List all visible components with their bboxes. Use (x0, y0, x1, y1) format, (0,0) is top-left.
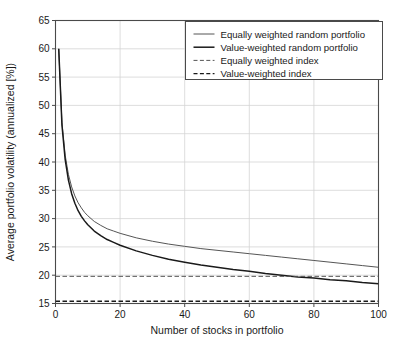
y-tick-label: 30 (38, 213, 50, 224)
y-axis-title: Average portfolio volatility (annualized… (4, 63, 16, 261)
y-tick-label: 35 (38, 185, 50, 196)
x-tick-label: 40 (179, 309, 191, 320)
y-tick-label: 55 (38, 72, 50, 83)
legend-label: Value-weighted random portfolio (221, 42, 358, 53)
x-axis-title: Number of stocks in portfolio (150, 324, 283, 336)
x-tick-label: 80 (308, 309, 320, 320)
x-tick-label: 60 (244, 309, 256, 320)
x-tick-label: 100 (370, 309, 387, 320)
legend-label: Equally weighted random portfolio (221, 29, 366, 40)
chart-figure: 1520253035404550556065020406080100 Numbe… (0, 0, 408, 348)
y-tick-label: 65 (38, 15, 50, 26)
y-tick-label: 50 (38, 100, 50, 111)
y-tick-label: 40 (38, 157, 50, 168)
chart-canvas: 1520253035404550556065020406080100 Numbe… (0, 0, 408, 348)
x-tick-label: 20 (115, 309, 127, 320)
chart-legend: Equally weighted random portfolioValue-w… (186, 22, 383, 80)
y-tick-label: 25 (38, 242, 50, 253)
y-tick-label: 15 (38, 298, 50, 309)
legend-label: Value-weighted index (221, 68, 312, 79)
y-tick-label: 45 (38, 128, 50, 139)
y-tick-label: 60 (38, 43, 50, 54)
x-tick-label: 0 (53, 309, 59, 320)
y-tick-label: 20 (38, 270, 50, 281)
legend-label: Equally weighted index (221, 55, 319, 66)
